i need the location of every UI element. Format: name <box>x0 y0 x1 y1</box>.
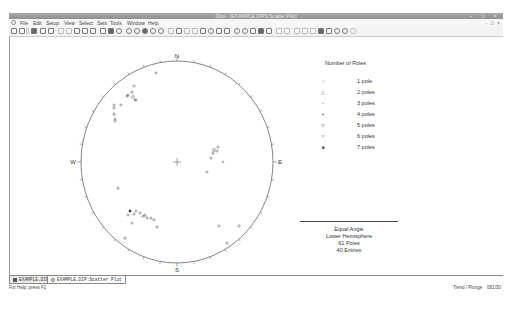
pole-marker[interactable] <box>222 161 225 164</box>
chart-icon[interactable] <box>266 28 272 34</box>
status-bar: For Help, press F1 Trend / Plunge 081/30 <box>9 284 503 293</box>
pole-marker[interactable] <box>133 213 135 215</box>
pole-marker[interactable] <box>213 149 215 151</box>
stereonet-2-icon[interactable] <box>134 28 140 34</box>
pole-marker[interactable] <box>131 222 133 224</box>
zoom-icon[interactable] <box>310 28 316 34</box>
pole-marker[interactable] <box>216 150 218 152</box>
menu-file[interactable]: File <box>20 19 28 27</box>
stereonet-4-icon[interactable] <box>150 28 156 34</box>
paste-icon[interactable] <box>82 28 88 34</box>
set-window-icon[interactable] <box>224 28 230 34</box>
menu-window[interactable]: Window <box>127 19 145 27</box>
pole-plot-icon[interactable] <box>100 28 106 34</box>
help-icon[interactable] <box>350 28 356 34</box>
tab-scatter-plot[interactable]: EXAMPLE.DIP:Scatter Plot <box>47 276 126 284</box>
pole-marker[interactable] <box>212 152 215 154</box>
projection-label: Equal Angle <box>300 226 398 233</box>
north-label: N <box>175 53 179 59</box>
dropdown-icon[interactable] <box>26 28 29 34</box>
edit-icon[interactable] <box>192 28 198 34</box>
scatter-plot-view[interactable]: N S W E Number of Poles ○1 pole △2 poles… <box>9 37 504 275</box>
mdi-window-controls[interactable]: - □ × <box>486 19 501 27</box>
menu-help[interactable]: Help <box>148 19 158 27</box>
pole-marker[interactable] <box>153 219 155 221</box>
arrow-icon[interactable] <box>258 28 264 34</box>
pole-marker[interactable] <box>124 237 127 239</box>
pole-marker[interactable] <box>129 210 131 212</box>
pole-marker[interactable] <box>226 242 228 244</box>
stereonet-1-icon[interactable] <box>126 28 132 34</box>
export-icon[interactable] <box>90 28 96 34</box>
summary-divider <box>300 221 398 222</box>
redo-icon[interactable] <box>66 28 72 34</box>
pole-marker[interactable] <box>120 104 122 106</box>
plot-summary: Equal Angle Lower Hemisphere 61 Poles 40… <box>300 226 398 254</box>
print-preview-icon[interactable] <box>40 28 46 34</box>
pole-marker[interactable] <box>155 72 157 74</box>
pole-marker[interactable] <box>238 225 240 227</box>
menu-view[interactable]: View <box>64 19 75 27</box>
pole-marker[interactable] <box>139 212 141 214</box>
add-line-icon[interactable] <box>184 28 190 34</box>
hemisphere-label: Lower Hemisphere <box>300 233 398 240</box>
app-icon[interactable] <box>11 20 16 25</box>
six-poles-symbol-icon: ▿ <box>320 133 326 140</box>
menu-select[interactable]: Select <box>79 19 93 27</box>
status-cursor-value: 081/30 <box>487 285 501 290</box>
measure-icon[interactable] <box>294 28 300 34</box>
grid-icon[interactable] <box>302 28 308 34</box>
west-label: W <box>70 159 76 165</box>
cone-2-icon[interactable] <box>216 28 222 34</box>
filter-icon[interactable] <box>276 28 282 34</box>
cone-icon[interactable] <box>208 28 214 34</box>
pole-marker[interactable] <box>132 96 134 98</box>
rosette-icon[interactable] <box>250 28 256 34</box>
new-icon[interactable] <box>11 28 17 34</box>
stereonet-5-icon[interactable] <box>158 28 164 34</box>
pole-marker[interactable] <box>127 214 129 216</box>
legend-item: ◇5 poles <box>320 122 400 129</box>
pole-marker[interactable] <box>144 214 147 216</box>
contour-plot-icon[interactable] <box>116 28 122 34</box>
add-set-icon[interactable] <box>176 28 182 34</box>
pan-icon[interactable] <box>334 28 340 34</box>
intersection-icon[interactable] <box>234 28 240 34</box>
print-icon[interactable] <box>48 28 54 34</box>
pole-marker[interactable] <box>206 171 208 173</box>
pole-marker[interactable] <box>113 113 116 115</box>
pole-marker[interactable] <box>131 91 134 93</box>
seven-poles-symbol-icon: ■ <box>320 144 326 151</box>
scatter-plot-icon[interactable] <box>108 28 114 34</box>
circle-icon[interactable] <box>200 28 206 34</box>
info-icon[interactable] <box>342 28 348 34</box>
stereonet-3-icon[interactable] <box>142 28 148 34</box>
menu-tools[interactable]: Tools <box>110 19 122 27</box>
legend-item: ▿6 poles <box>320 133 400 140</box>
pole-marker[interactable] <box>217 146 219 148</box>
pole-marker[interactable] <box>146 217 148 219</box>
stereonet-plot[interactable]: N S W E <box>10 37 504 275</box>
pole-marker[interactable] <box>156 226 158 228</box>
pole-marker[interactable] <box>113 107 115 109</box>
add-plane-icon[interactable] <box>168 28 174 34</box>
pole-marker[interactable] <box>218 225 220 227</box>
copy-icon[interactable] <box>74 28 80 34</box>
zoom-extents-icon[interactable] <box>318 28 324 34</box>
pole-marker[interactable] <box>135 210 137 212</box>
pole-marker[interactable] <box>150 217 153 219</box>
save-icon[interactable] <box>31 28 37 34</box>
undo-icon[interactable] <box>58 28 64 34</box>
pole-marker[interactable] <box>113 104 115 106</box>
stereonet-icon <box>51 278 55 282</box>
pole-marker[interactable] <box>133 85 135 87</box>
query-icon[interactable] <box>284 28 290 34</box>
kinematic-icon[interactable] <box>242 28 248 34</box>
open-icon[interactable] <box>19 28 25 34</box>
pole-marker[interactable] <box>117 187 120 189</box>
rotate-icon[interactable] <box>326 28 332 34</box>
menu-setup[interactable]: Setup <box>46 19 59 27</box>
menu-edit[interactable]: Edit <box>33 19 42 27</box>
pole-marker[interactable] <box>210 157 212 159</box>
menu-sets[interactable]: Sets <box>97 19 107 27</box>
